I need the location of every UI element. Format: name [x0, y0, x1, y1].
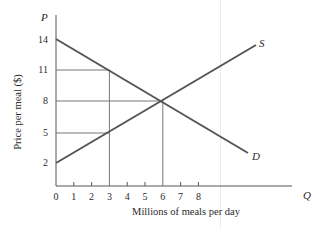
x-axis-label: Millions of meals per day — [132, 206, 240, 217]
x-tick-7: 7 — [174, 192, 188, 202]
y-tick-14: 14 — [24, 35, 48, 45]
y-tick-2: 2 — [24, 158, 48, 168]
x-tick-0: 0 — [49, 192, 63, 202]
y-tick-11: 11 — [24, 65, 48, 75]
supply-label: S — [259, 38, 265, 48]
x-tick-4: 4 — [120, 192, 134, 202]
demand-label: D — [252, 151, 260, 161]
y-axis-symbol: P — [41, 12, 48, 22]
x-tick-3: 3 — [102, 192, 116, 202]
x-ticks — [74, 182, 199, 186]
guide-lines — [56, 70, 163, 186]
x-tick-5: 5 — [138, 192, 152, 202]
x-tick-8: 8 — [191, 192, 205, 202]
x-tick-1: 1 — [67, 192, 81, 202]
x-axis-symbol: Q — [303, 190, 311, 200]
x-tick-6: 6 — [156, 192, 170, 202]
y-axis-label: Price per meal ($) — [12, 74, 23, 150]
x-tick-2: 2 — [85, 192, 99, 202]
y-tick-8: 8 — [24, 96, 48, 106]
demand-curve — [56, 39, 248, 153]
supply-curve — [56, 45, 256, 163]
y-tick-5: 5 — [24, 128, 48, 138]
